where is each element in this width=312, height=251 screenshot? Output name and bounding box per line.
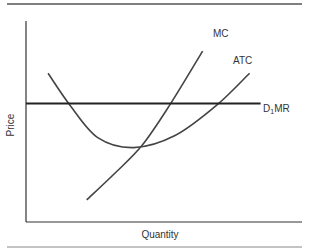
atc-label: ATC [233,55,252,66]
d1mr-label: D1MR [263,103,290,115]
y-axis-label: Price [5,113,16,136]
series-line-mc [87,51,203,200]
mc-label: MC [213,28,229,39]
chart: Price Quantity MC ATC D1MR [0,0,312,251]
x-axis-label: Quantity [141,229,178,240]
